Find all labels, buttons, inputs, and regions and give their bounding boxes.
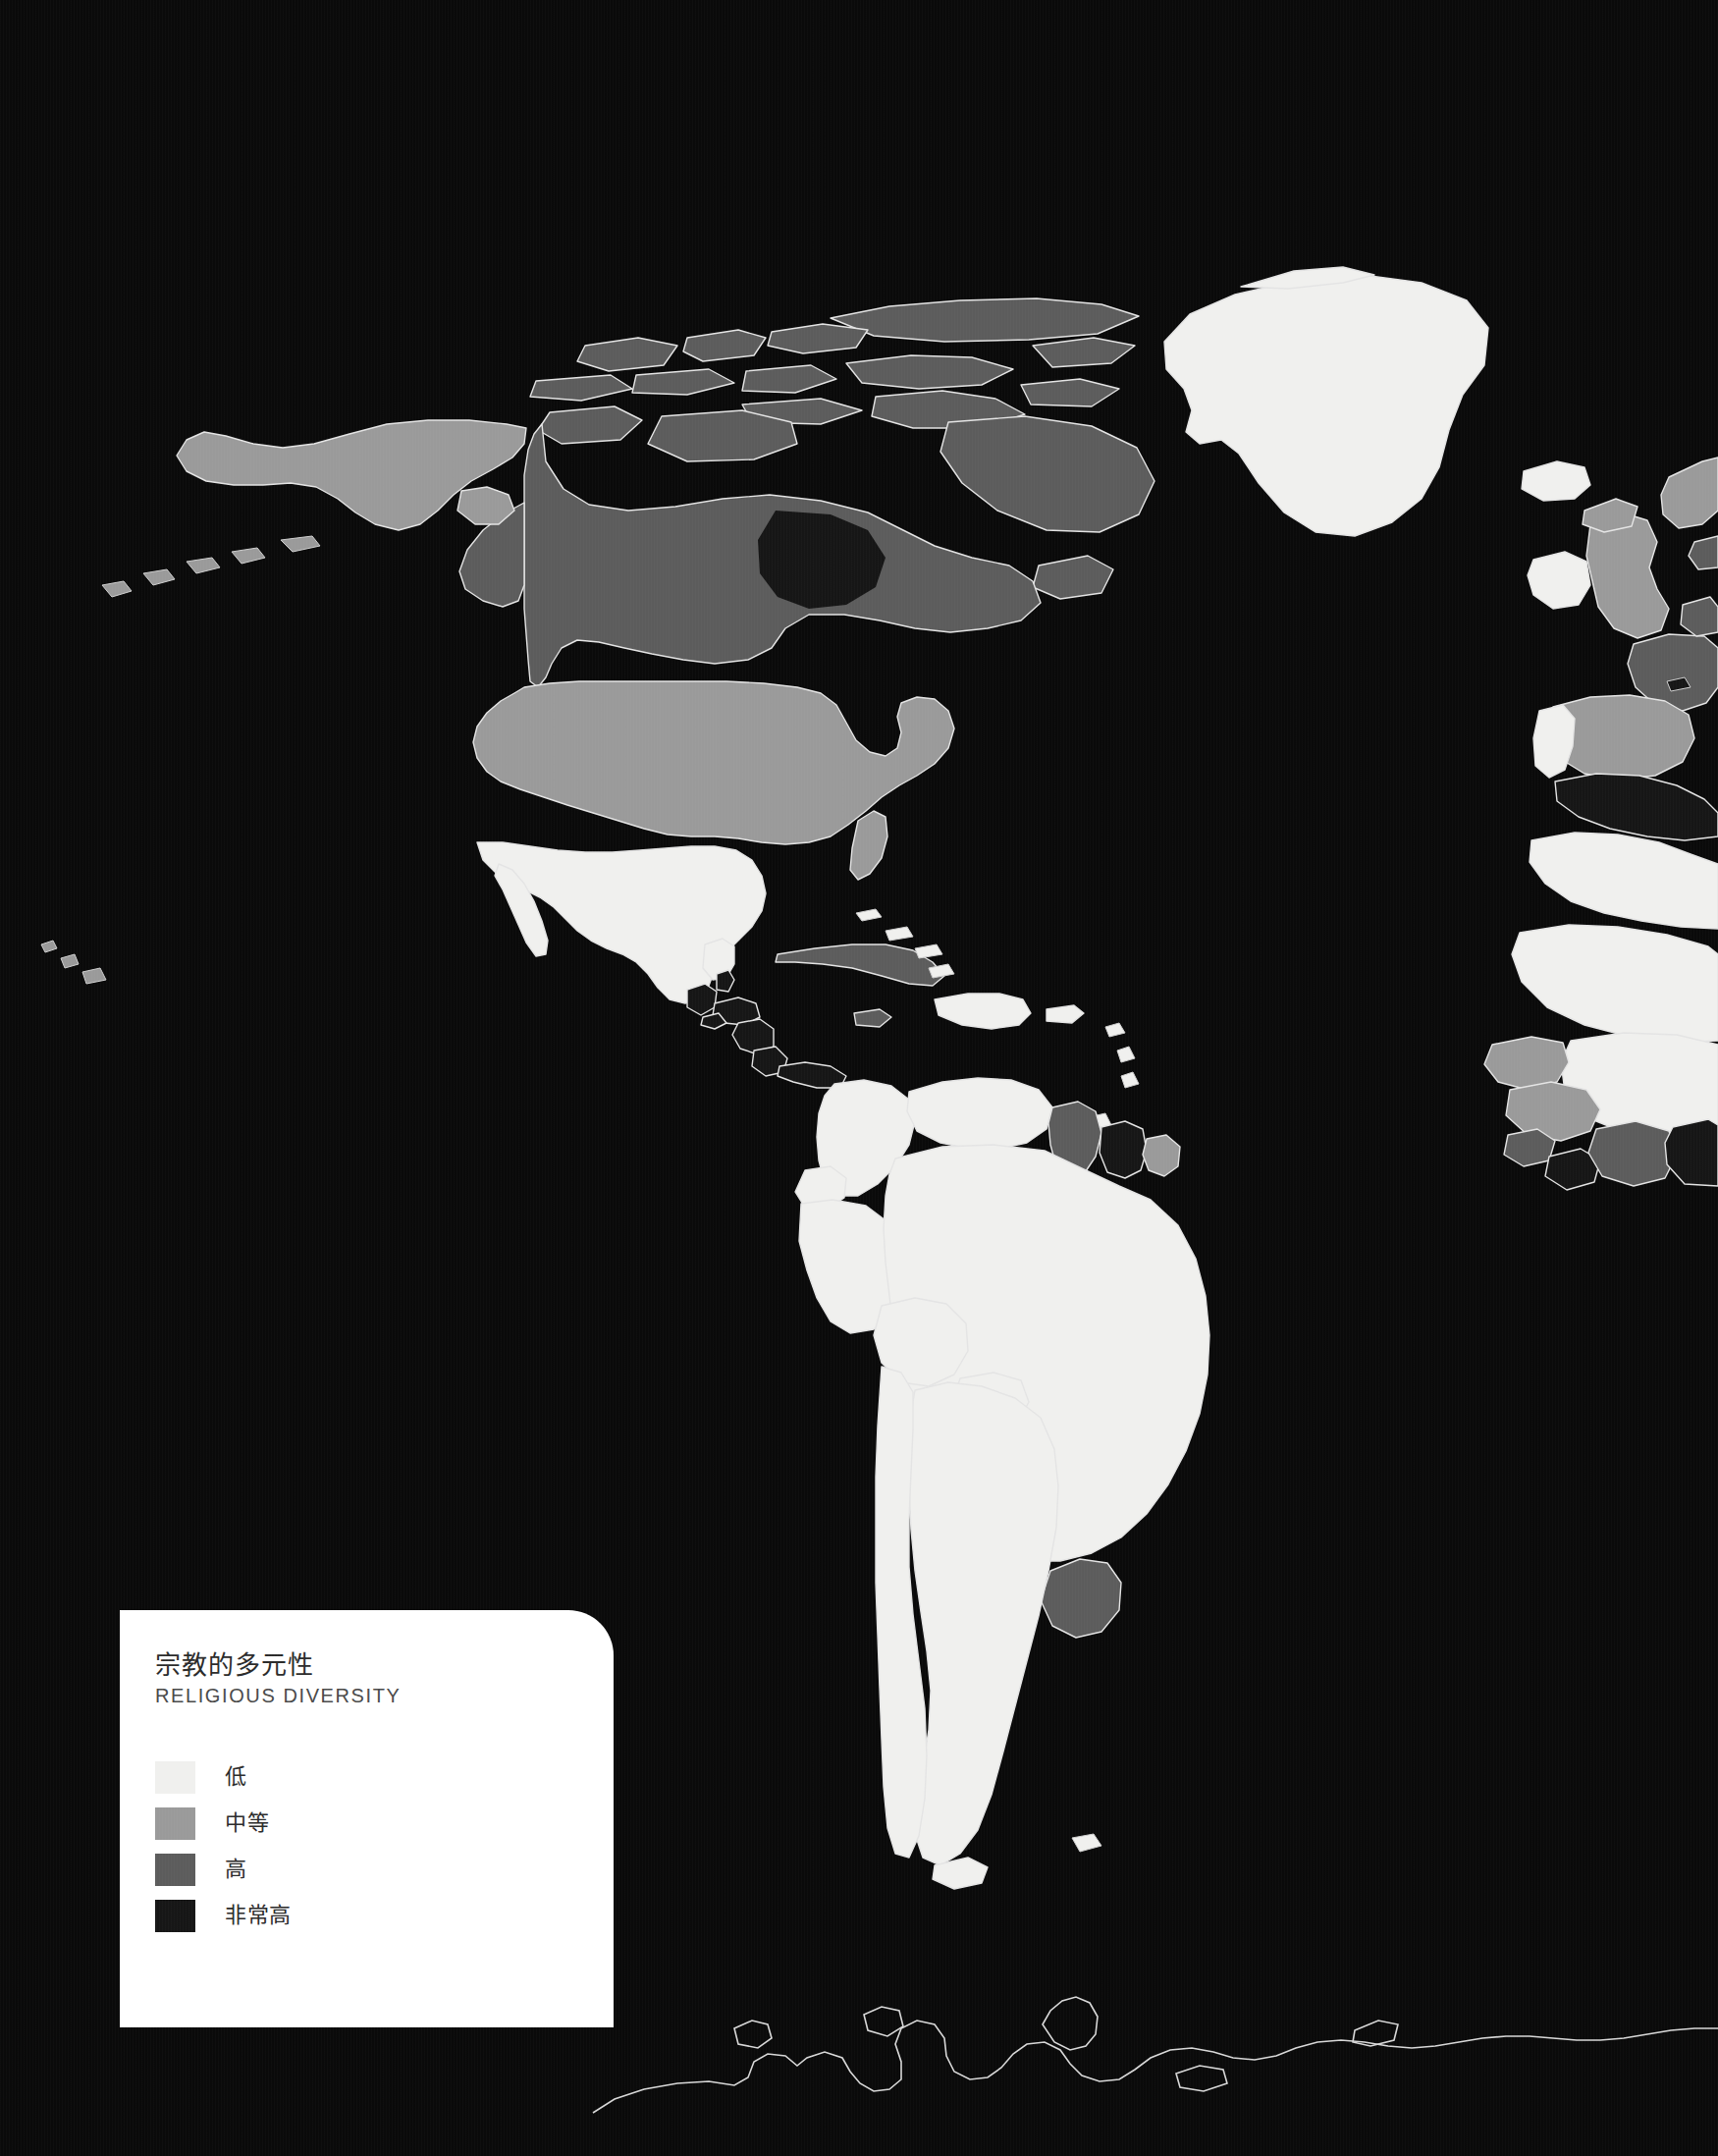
map-page: .lo{fill:#f0f0ee;} .md{fill:#9a9a9a;} .h… xyxy=(0,0,1718,2156)
legend-key-list: 低 中等 高 非常高 xyxy=(155,1754,614,1939)
region-ivory-coast[interactable] xyxy=(1588,1121,1677,1186)
legend-swatch-medium xyxy=(155,1807,195,1840)
legend-key-high[interactable]: 高 xyxy=(155,1847,614,1893)
legend-key-low[interactable]: 低 xyxy=(155,1754,614,1801)
legend-swatch-high xyxy=(155,1854,195,1886)
region-suriname[interactable] xyxy=(1100,1121,1147,1178)
legend-swatch-low xyxy=(155,1761,195,1794)
legend-title-en: RELIGIOUS DIVERSITY xyxy=(155,1684,614,1707)
map-legend: 宗教的多元性 RELIGIOUS DIVERSITY 低 中等 高 非常高 xyxy=(120,1610,614,2027)
legend-title-cjk: 宗教的多元性 xyxy=(155,1649,614,1682)
legend-key-medium[interactable]: 中等 xyxy=(155,1801,614,1847)
legend-label-very-high: 非常高 xyxy=(225,1905,292,1926)
legend-key-very-high[interactable]: 非常高 xyxy=(155,1893,614,1939)
legend-label-low: 低 xyxy=(225,1766,247,1788)
legend-label-high: 高 xyxy=(225,1859,247,1880)
legend-swatch-very-high xyxy=(155,1900,195,1932)
legend-label-medium: 中等 xyxy=(225,1812,269,1834)
